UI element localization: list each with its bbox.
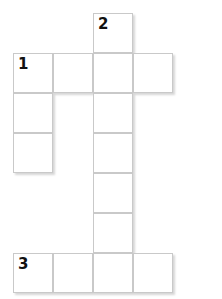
crossword-cell[interactable] [93, 53, 133, 93]
crossword-cell[interactable] [13, 133, 53, 173]
crossword-cell[interactable] [93, 133, 133, 173]
crossword-cell[interactable] [53, 253, 93, 293]
crossword-cell[interactable] [133, 253, 173, 293]
crossword-cell[interactable] [133, 53, 173, 93]
crossword-cell[interactable]: 1 [13, 53, 53, 93]
crossword-puzzle: 213 [0, 0, 222, 299]
crossword-cell[interactable] [93, 253, 133, 293]
cell-clue-number: 1 [18, 55, 28, 73]
crossword-cell[interactable] [93, 213, 133, 253]
crossword-grid: 213 [0, 0, 222, 299]
crossword-cell[interactable] [93, 173, 133, 213]
crossword-cell[interactable] [53, 53, 93, 93]
cell-clue-number: 3 [18, 255, 28, 273]
cell-clue-number: 2 [98, 15, 108, 33]
crossword-cell[interactable]: 2 [93, 13, 133, 53]
crossword-cell[interactable]: 3 [13, 253, 53, 293]
crossword-cell[interactable] [13, 93, 53, 133]
crossword-cell[interactable] [93, 93, 133, 133]
